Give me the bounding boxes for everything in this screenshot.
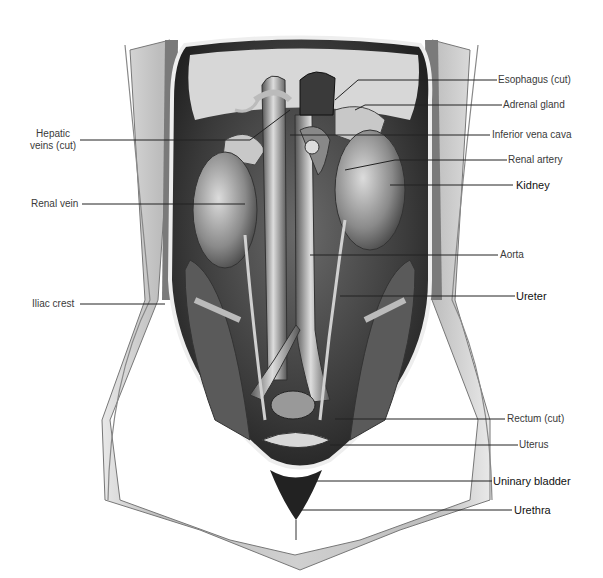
label-urethra: Urethra [514,504,551,516]
label-renal-vein: Renal vein [31,198,78,210]
rectum [271,391,315,419]
urinary-bladder [270,470,322,520]
label-aorta: Aorta [500,249,524,261]
label-hepatic-veins-line2: veins (cut) [30,140,76,152]
label-urinary-bladder: Uninary bladder [493,475,571,487]
label-iliac-crest: Iliac crest [32,298,74,310]
kidney-right [335,130,405,250]
label-esophagus: Esophagus (cut) [498,74,571,86]
abdomen-illustration [0,0,603,578]
label-inferior-vena-cava: Inferior vena cava [492,129,572,141]
label-kidney: Kidney [516,179,550,191]
label-hepatic-veins: Hepatic veins (cut) [30,128,76,152]
label-uterus: Uterus [519,439,548,451]
label-rectum: Rectum (cut) [507,413,564,425]
label-hepatic-veins-line1: Hepatic [30,128,76,140]
esophagus [300,72,335,115]
anatomy-figure: Hepatic veins (cut) Renal vein Iliac cre… [0,0,603,578]
label-adrenal-gland: Adrenal gland [503,99,565,111]
label-ureter: Ureter [516,290,547,302]
label-renal-artery: Renal artery [508,154,562,166]
